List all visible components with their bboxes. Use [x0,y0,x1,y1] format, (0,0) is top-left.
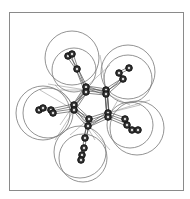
atom [124,122,131,129]
atom [81,145,88,152]
atom [78,157,85,164]
atom [126,65,133,72]
atom [116,70,123,77]
atom [40,105,47,112]
atom [135,127,142,134]
atom [82,135,89,142]
atom [105,114,112,121]
figure-frame [10,13,184,191]
atom [71,107,78,114]
atom [50,110,57,117]
atom [83,89,90,96]
network-line [55,85,74,105]
atom [120,76,127,83]
network-line [89,126,110,150]
atom [69,51,76,58]
bonds [39,54,138,161]
atom [74,66,81,73]
molecule-figure [0,0,190,199]
atom [86,116,93,123]
atoms [36,51,142,164]
molecule-diagram [0,0,190,199]
atom [103,91,110,98]
atom [85,123,92,130]
sphere-outline [104,55,152,103]
